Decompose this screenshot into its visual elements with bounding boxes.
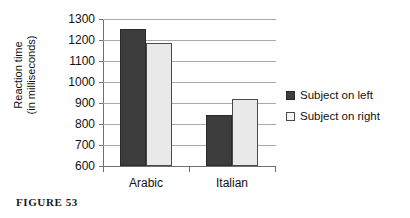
legend-swatch-light-square-icon — [286, 112, 295, 121]
plot-area — [103, 19, 276, 166]
y-axis-tick-labels: 1300 1200 1100 1000 900 800 700 600 — [53, 0, 95, 218]
figure-caption: FIGURE 53 — [16, 196, 78, 208]
bar-arabic-subject-on-right — [146, 43, 172, 166]
x-category-label-arabic: Arabic — [101, 176, 191, 190]
bar-arabic-subject-on-left — [120, 29, 146, 166]
chart-legend: Subject on left Subject on right — [286, 86, 410, 128]
y-tick-label-900: 900 — [55, 96, 95, 110]
x-tick-mark-start — [103, 167, 104, 172]
bar-italian-subject-on-left — [206, 115, 232, 166]
bar-italian-subject-on-right — [232, 99, 258, 166]
y-axis-title-line-2: (in milliseconds) — [25, 5, 38, 145]
x-category-label-italian: Italian — [187, 176, 277, 190]
y-tick-label-1100: 1100 — [55, 54, 95, 68]
y-tick-label-1000: 1000 — [55, 75, 95, 89]
legend-label-subject-on-left: Subject on left — [300, 89, 373, 101]
legend-item-subject-on-right: Subject on right — [286, 107, 410, 125]
y-tick-label-1300: 1300 — [55, 12, 95, 26]
y-tick-label-1200: 1200 — [55, 33, 95, 47]
legend-swatch-dark-square-icon — [286, 91, 295, 100]
y-tick-label-800: 800 — [55, 117, 95, 131]
figure-53: Reaction time (in milliseconds) 1300 120… — [0, 0, 410, 218]
x-tick-mark-end — [275, 167, 276, 172]
legend-item-subject-on-left: Subject on left — [286, 86, 410, 104]
y-tick-label-600: 600 — [55, 159, 95, 173]
y-tick-label-700: 700 — [55, 138, 95, 152]
legend-label-subject-on-right: Subject on right — [300, 110, 380, 122]
y-axis-title: Reaction time (in milliseconds) — [12, 5, 52, 145]
y-axis-title-line-1: Reaction time — [12, 5, 25, 145]
x-tick-mark-middle — [189, 167, 190, 172]
gridline-1300 — [103, 19, 276, 20]
